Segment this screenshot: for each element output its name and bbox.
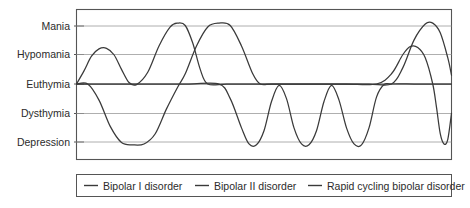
- legend-label-bipolar-ii: Bipolar II disorder: [214, 180, 297, 192]
- axis-label-mania: Mania: [41, 20, 70, 32]
- legend-label-bipolar-i: Bipolar I disorder: [103, 180, 183, 192]
- axis-label-hypomania: Hypomania: [17, 48, 70, 60]
- legend-label-rapid-cycling: Rapid cycling bipolar disorder: [327, 180, 465, 192]
- mood-episode-chart: Mania Hypomania Euthymia Dysthymia Depre…: [0, 0, 470, 208]
- axis-label-dysthymia: Dysthymia: [21, 107, 70, 119]
- legend: Bipolar I disorder Bipolar II disorder R…: [77, 175, 466, 197]
- axis-label-depression: Depression: [17, 136, 70, 148]
- axis-label-euthymia: Euthymia: [26, 78, 70, 90]
